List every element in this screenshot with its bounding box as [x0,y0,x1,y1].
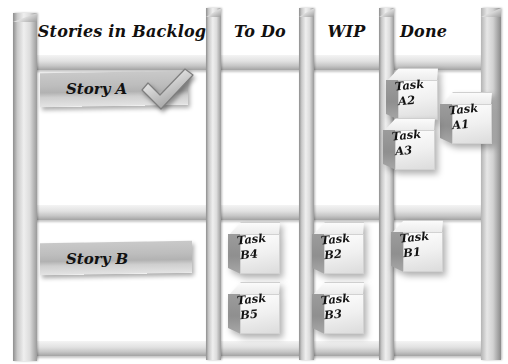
board-frame-right-post [481,8,501,360]
story-card[interactable]: Story B [40,241,192,275]
board-frame-left-post [13,13,37,361]
board-rail-row-divider [16,205,494,220]
board-rail-bottom [16,341,494,356]
column-header-done: Done [394,14,487,48]
task-cube[interactable]: Task B5 [228,282,280,334]
task-cube[interactable]: Task B3 [312,282,364,334]
task-cube-front-face [403,232,443,272]
task-cube-front-face [324,234,364,274]
column-divider-backlog-todo [206,8,221,360]
task-cube-front-face [240,234,280,274]
task-cube-front-face [240,294,280,334]
scrum-task-board: Stories in Backlog To Do WIP Done Story … [0,0,508,364]
story-card-label: Story A [40,80,127,98]
task-cube[interactable]: Task B2 [312,222,364,274]
column-divider-wip-done [379,8,394,360]
task-cube-front-face [398,80,438,120]
story-card-label: Story B [40,250,128,268]
task-cube-front-face [324,294,364,334]
task-cube[interactable]: Task B4 [228,222,280,274]
task-cube[interactable]: Task A2 [386,68,438,120]
task-cube[interactable]: Task A3 [383,118,435,170]
column-header-wip: WIP [314,14,379,48]
column-header-todo: To Do [221,14,299,48]
column-header-backlog: Stories in Backlog [38,14,206,48]
task-cube-front-face [452,104,492,144]
check-icon [138,66,196,112]
task-cube[interactable]: Task A1 [440,92,492,144]
task-cube-front-face [395,130,435,170]
task-cube[interactable]: Task B1 [391,220,443,272]
